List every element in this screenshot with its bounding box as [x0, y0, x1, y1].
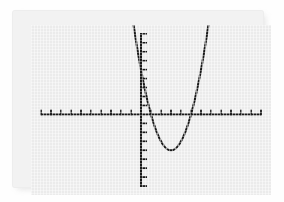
calculator-screen[interactable]	[31, 25, 271, 195]
calculator-screen-bezel	[13, 11, 263, 187]
graph-plot[interactable]	[31, 25, 271, 195]
y-axis-group	[140, 33, 147, 187]
page-background	[0, 0, 284, 202]
